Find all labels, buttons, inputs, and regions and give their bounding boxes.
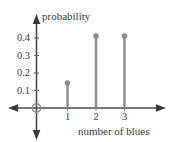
x-tick-label-1: 1 xyxy=(61,112,75,123)
stem-2 xyxy=(93,33,99,108)
x-axis-left-arrowhead xyxy=(8,104,18,112)
probability-stem-plot-figure: 0.4 0.3 0.2 0.1 1 2 3 probability number… xyxy=(0,0,172,142)
stem-1 xyxy=(65,80,71,108)
x-axis-title: number of blues xyxy=(78,126,149,137)
y-tick-label-0.2: 0.2 xyxy=(6,68,30,79)
y-tick-label-0.4: 0.4 xyxy=(6,33,30,44)
y-axis-up-arrowhead xyxy=(33,14,41,24)
stem-marker-1 xyxy=(65,80,71,86)
y-axis xyxy=(33,14,41,140)
stem-marker-3 xyxy=(122,33,128,39)
stem-marker-2 xyxy=(93,33,99,39)
stem-3 xyxy=(122,33,128,108)
x-tick-label-2: 2 xyxy=(89,112,103,123)
y-tick-label-0.1: 0.1 xyxy=(6,86,30,97)
y-axis-down-arrowhead xyxy=(33,130,41,140)
x-tick-label-3: 3 xyxy=(118,112,132,123)
y-tick-label-0.3: 0.3 xyxy=(6,51,30,62)
x-axis-right-arrowhead xyxy=(156,104,166,112)
y-axis-title: probability xyxy=(42,11,90,22)
